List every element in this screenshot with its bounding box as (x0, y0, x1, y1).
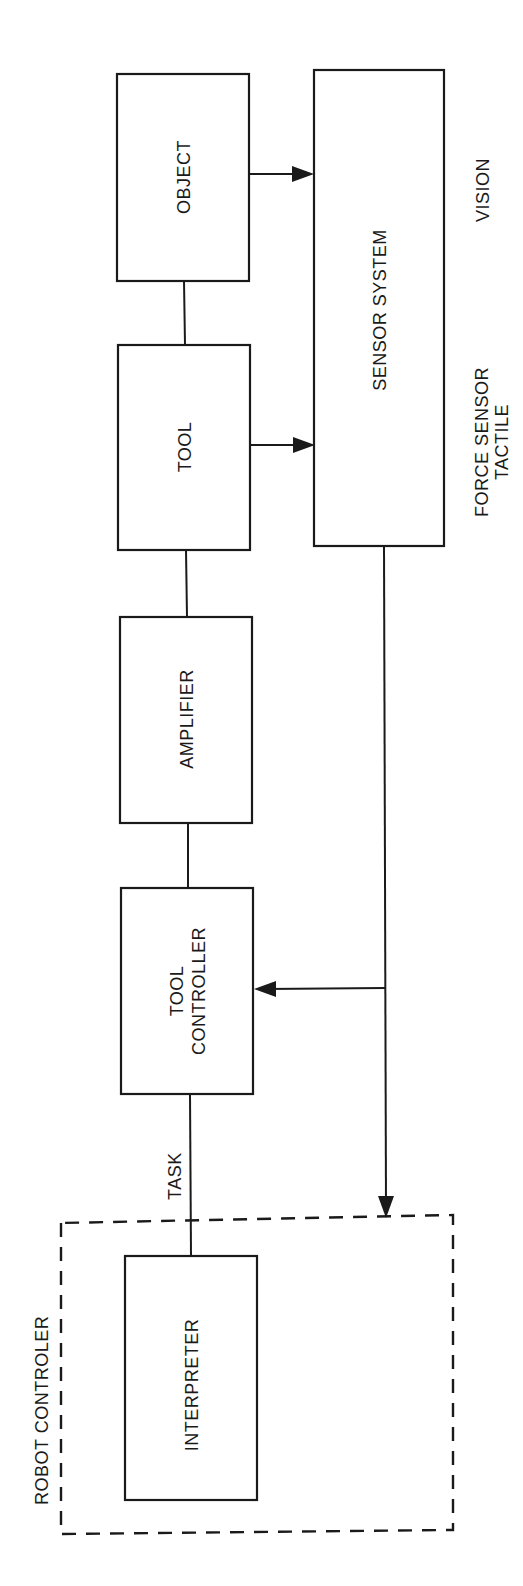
robot-controller-label: ROBOT CONTROLER (32, 1316, 52, 1505)
block-object: OBJECT (117, 74, 249, 281)
block-sensor-system-label: SENSOR SYSTEM (370, 229, 390, 391)
block-tool: TOOL (118, 345, 250, 550)
arrowhead-icon (293, 437, 315, 453)
vision-label: VISION (473, 158, 493, 222)
task-label: TASK (165, 1152, 185, 1200)
block-tool-controller: TOOL CONTROLLER (121, 888, 253, 1094)
block-diagram: ROBOT CONTROLER TASK OBJECT TOOL AMPLIFI… (0, 0, 523, 1586)
sensor-feedback-path (254, 546, 394, 1218)
arrow-object-to-sensor (249, 166, 314, 182)
connector-tool-amplifier (186, 550, 187, 617)
block-tool-controller-label-line1: TOOL (167, 966, 187, 1017)
arrowhead-icon (254, 981, 276, 997)
block-amplifier-label: AMPLIFIER (177, 669, 197, 769)
block-interpreter-label: INTERPRETER (182, 1319, 202, 1452)
block-object-label: OBJECT (174, 140, 194, 214)
connector-task (190, 1094, 191, 1256)
connector-object-tool (184, 281, 185, 345)
block-interpreter: INTERPRETER (125, 1256, 257, 1500)
force-sensor-label-line2: TACTILE (492, 404, 512, 480)
block-tool-controller-label-line2: CONTROLLER (189, 927, 209, 1055)
block-amplifier: AMPLIFIER (120, 617, 252, 823)
block-sensor-system: SENSOR SYSTEM (314, 70, 444, 546)
arrowhead-icon (292, 166, 314, 182)
arrowhead-icon (378, 1196, 394, 1218)
force-sensor-label-line1: FORCE SENSOR (472, 367, 492, 517)
arrow-tool-to-sensor (250, 437, 315, 453)
block-tool-label: TOOL (175, 422, 195, 473)
